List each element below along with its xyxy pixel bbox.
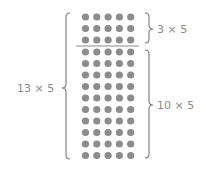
dot — [105, 13, 112, 20]
left-brace — [62, 13, 70, 159]
dot — [82, 13, 89, 20]
dot — [93, 94, 100, 101]
dot — [116, 152, 123, 159]
dot — [127, 129, 134, 136]
dot — [116, 83, 123, 90]
bottom-dot-group — [82, 48, 134, 159]
dot — [116, 36, 123, 43]
dot — [93, 13, 100, 20]
dot — [127, 140, 134, 147]
dot — [105, 129, 112, 136]
top-part-label: 3 × 5 — [157, 23, 187, 36]
dot — [116, 140, 123, 147]
top-right-brace — [145, 13, 153, 43]
total-label: 13 × 5 — [17, 82, 54, 95]
dot — [127, 13, 134, 20]
dot — [116, 117, 123, 124]
dot — [127, 152, 134, 159]
dot — [82, 129, 89, 136]
dot — [105, 60, 112, 67]
dot — [93, 36, 100, 43]
dot — [105, 36, 112, 43]
dot — [82, 152, 89, 159]
dot — [116, 94, 123, 101]
dot — [116, 13, 123, 20]
dot — [127, 60, 134, 67]
dot — [105, 140, 112, 147]
dot — [127, 25, 134, 32]
dot — [82, 25, 89, 32]
dot — [82, 60, 89, 67]
dot — [93, 83, 100, 90]
dot — [93, 25, 100, 32]
dot — [93, 117, 100, 124]
dot — [127, 117, 134, 124]
dot — [116, 25, 123, 32]
dot — [127, 48, 134, 55]
dot — [82, 106, 89, 113]
dot — [127, 71, 134, 78]
dot — [105, 117, 112, 124]
dot — [105, 106, 112, 113]
dot — [82, 83, 89, 90]
dot — [105, 48, 112, 55]
dot-array-diagram: 13 × 5 3 × 5 10 × 5 — [0, 0, 206, 171]
dot — [82, 71, 89, 78]
dot — [116, 48, 123, 55]
dot — [105, 83, 112, 90]
dot — [105, 71, 112, 78]
dot — [127, 83, 134, 90]
dot — [93, 71, 100, 78]
dot — [105, 152, 112, 159]
dot — [93, 106, 100, 113]
dot — [93, 140, 100, 147]
dot — [82, 94, 89, 101]
dot — [116, 129, 123, 136]
bottom-right-brace — [145, 50, 153, 158]
dot — [93, 152, 100, 159]
top-dot-group — [82, 13, 134, 43]
dot — [93, 60, 100, 67]
dot — [116, 60, 123, 67]
dot — [82, 36, 89, 43]
dot — [127, 94, 134, 101]
dot — [105, 25, 112, 32]
dot — [105, 94, 112, 101]
dot — [116, 106, 123, 113]
bottom-part-label: 10 × 5 — [157, 99, 194, 112]
dot — [82, 117, 89, 124]
dot — [82, 140, 89, 147]
dot — [82, 48, 89, 55]
dot — [93, 129, 100, 136]
dot — [127, 36, 134, 43]
dot — [116, 71, 123, 78]
dot — [127, 106, 134, 113]
dot — [93, 48, 100, 55]
